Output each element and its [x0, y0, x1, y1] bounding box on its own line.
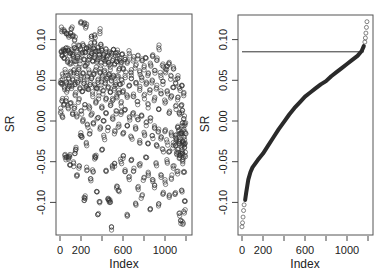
right-panel-sorted: 02006001000 0.100.050.00-0.05-0.10 Index…: [198, 15, 373, 271]
left-x-axis-label: Index: [109, 257, 138, 271]
tail-point: [364, 25, 368, 29]
data-point: [157, 43, 161, 47]
y-tick-label: 0.10: [217, 29, 229, 50]
right-y-axis-label: SR: [198, 115, 212, 132]
data-point: [58, 106, 62, 110]
data-point: [109, 228, 113, 232]
sorted-curve: [240, 20, 369, 229]
y-tick-label: -0.10: [217, 190, 229, 215]
data-point: [119, 104, 123, 108]
x-tick-label: 600: [296, 244, 314, 256]
x-tick-label: 1000: [153, 244, 177, 256]
data-point: [63, 67, 67, 71]
left-y-axis-label: SR: [3, 115, 17, 132]
data-point: [166, 143, 170, 147]
tail-point: [363, 40, 367, 44]
data-point: [158, 70, 162, 74]
data-point: [142, 97, 146, 101]
tail-point: [365, 20, 369, 24]
scatter-points: [58, 19, 188, 232]
y-tick-label: -0.10: [35, 190, 47, 215]
data-point: [84, 165, 88, 169]
data-point: [127, 48, 131, 52]
y-tick-label: 0.00: [217, 110, 229, 131]
tail-point: [241, 215, 245, 219]
x-tick-label: 600: [114, 244, 132, 256]
right-plot-frame: [238, 15, 373, 235]
data-point: [79, 131, 83, 135]
tail-point: [242, 209, 246, 213]
tail-point: [364, 31, 368, 35]
y-tick-label: 0.05: [217, 70, 229, 91]
left-x-axis: 02006001000: [57, 236, 186, 256]
tail-point: [363, 36, 367, 40]
tail-point: [241, 221, 245, 225]
data-point: [151, 136, 155, 140]
x-tick-label: 0: [57, 244, 63, 256]
data-point: [88, 129, 92, 133]
chart-figure: 02006001000 0.100.050.00-0.05-0.10 Index…: [0, 0, 388, 277]
y-tick-label: -0.05: [217, 149, 229, 174]
data-point: [98, 26, 102, 30]
y-tick-label: 0.10: [35, 29, 47, 50]
right-x-axis: 02006001000: [239, 236, 368, 256]
tail-point: [242, 203, 246, 207]
data-point: [170, 173, 174, 177]
x-tick-label: 200: [254, 244, 272, 256]
data-point: [146, 106, 150, 110]
y-tick-label: -0.05: [35, 149, 47, 174]
y-tick-label: 0.05: [35, 70, 47, 91]
right-x-axis-label: Index: [290, 257, 319, 271]
data-point: [59, 25, 63, 29]
x-tick-label: 0: [239, 244, 245, 256]
x-tick-label: 1000: [335, 244, 359, 256]
right-y-axis: 0.100.050.00-0.05-0.10: [217, 29, 238, 215]
left-panel-scatter: 02006001000 0.100.050.00-0.05-0.10 Index…: [3, 14, 192, 271]
data-point: [136, 102, 140, 106]
left-y-axis: 0.100.050.00-0.05-0.10: [35, 29, 56, 215]
x-tick-label: 200: [72, 244, 90, 256]
data-point: [106, 128, 110, 132]
y-tick-label: 0.00: [35, 110, 47, 131]
sorted-curve-line: [245, 46, 364, 200]
tail-point: [240, 225, 244, 229]
data-point: [116, 125, 120, 129]
